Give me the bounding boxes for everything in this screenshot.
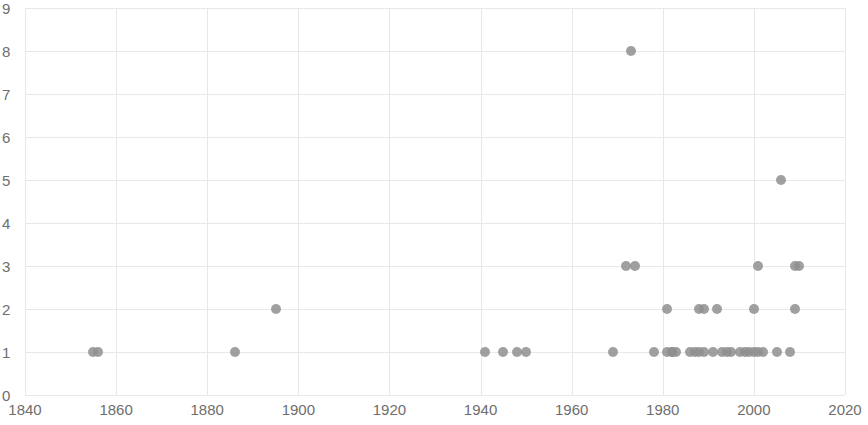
data-point <box>790 304 800 314</box>
x-tick-label-1960: 1960 <box>555 402 588 417</box>
gridline-y-7 <box>25 94 845 95</box>
data-point <box>649 347 659 357</box>
y-tick-label-5: 5 <box>2 173 10 188</box>
x-tick-label-2020: 2020 <box>828 402 861 417</box>
gridline-y-3 <box>25 266 845 267</box>
gridline-y-5 <box>25 180 845 181</box>
gridline-y-8 <box>25 51 845 52</box>
x-tick-label-1980: 1980 <box>646 402 679 417</box>
data-point <box>699 304 709 314</box>
data-point <box>271 304 281 314</box>
y-tick-label-4: 4 <box>2 216 10 231</box>
y-tick-label-8: 8 <box>2 44 10 59</box>
gridline-x-1840 <box>25 8 26 395</box>
data-point <box>630 261 640 271</box>
data-point <box>498 347 508 357</box>
gridline-x-1920 <box>389 8 390 395</box>
y-axis-tick-labels: 0123456789 <box>0 0 25 425</box>
y-tick-label-2: 2 <box>2 302 10 317</box>
scatter-chart: 0123456789 18401860188019001920194019601… <box>0 0 868 425</box>
gridline-x-1980 <box>663 8 664 395</box>
data-point <box>480 347 490 357</box>
gridline-x-1880 <box>207 8 208 395</box>
y-tick-label-3: 3 <box>2 259 10 274</box>
y-tick-label-6: 6 <box>2 130 10 145</box>
x-tick-label-1860: 1860 <box>99 402 132 417</box>
gridline-x-2020 <box>845 8 846 395</box>
y-tick-label-1: 1 <box>2 345 10 360</box>
data-point <box>749 304 759 314</box>
x-tick-label-2000: 2000 <box>737 402 770 417</box>
gridline-x-2000 <box>754 8 755 395</box>
data-point <box>776 175 786 185</box>
x-tick-label-1940: 1940 <box>464 402 497 417</box>
data-point <box>662 304 672 314</box>
x-tick-label-1880: 1880 <box>191 402 224 417</box>
x-tick-label-1920: 1920 <box>373 402 406 417</box>
y-tick-label-9: 9 <box>2 1 10 16</box>
data-point <box>608 347 618 357</box>
data-point <box>671 347 681 357</box>
data-point <box>794 261 804 271</box>
gridline-x-1960 <box>572 8 573 395</box>
x-tick-label-1840: 1840 <box>8 402 41 417</box>
data-point <box>758 347 768 357</box>
y-tick-label-7: 7 <box>2 87 10 102</box>
gridline-y-6 <box>25 137 845 138</box>
data-point <box>626 46 636 56</box>
gridline-y-9 <box>25 8 845 9</box>
data-point <box>712 304 722 314</box>
gridline-x-1860 <box>116 8 117 395</box>
data-point <box>521 347 531 357</box>
data-point <box>785 347 795 357</box>
data-point <box>230 347 240 357</box>
data-point <box>772 347 782 357</box>
gridline-y-4 <box>25 223 845 224</box>
data-point <box>93 347 103 357</box>
x-tick-label-1900: 1900 <box>282 402 315 417</box>
plot-area <box>25 8 845 395</box>
gridline-x-1900 <box>298 8 299 395</box>
data-point <box>753 261 763 271</box>
gridline-x-1940 <box>481 8 482 395</box>
gridline-y-0 <box>25 395 845 396</box>
